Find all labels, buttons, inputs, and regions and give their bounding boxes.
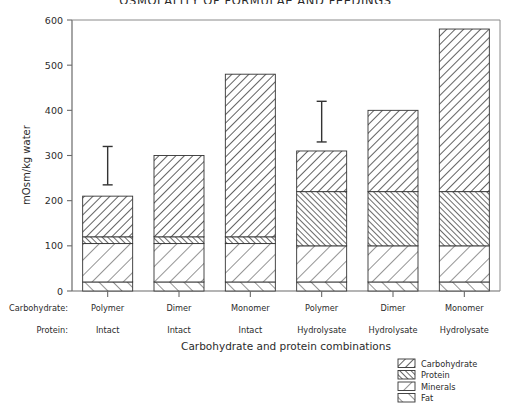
legend-label-protein: Protein xyxy=(421,370,450,380)
error-bar xyxy=(103,146,113,184)
category-row-name: Carbohydrate: xyxy=(9,303,68,313)
bar-segment-protein xyxy=(154,237,204,244)
bars-group xyxy=(83,29,490,291)
bar-segment-protein xyxy=(225,237,275,244)
legend-label-fat: Fat xyxy=(421,393,434,403)
legend-label-carbohydrate: Carbohydrate xyxy=(421,359,477,369)
bar-segment-fat xyxy=(439,282,489,291)
category-row-name: Protein: xyxy=(37,325,68,335)
legend-swatch-fat xyxy=(398,394,415,403)
bar-segment-fat xyxy=(154,282,204,291)
bar-segment-protein xyxy=(439,192,489,246)
y-tick-label: 400 xyxy=(45,105,63,116)
category-label: Hydrolysate xyxy=(440,325,489,335)
legend-swatch-carbohydrate xyxy=(398,359,415,368)
y-axis-label: mOsm/kg water xyxy=(21,124,32,205)
osmolality-stacked-bar-chart: OSMOLALITY OF FORMULAE AND FEEDINGS xyxy=(0,0,511,404)
category-label: Hydrolysate xyxy=(297,325,346,335)
bar-segment-carbohydrate xyxy=(154,156,204,237)
bar-segment-fat xyxy=(297,282,347,291)
category-label: Hydrolysate xyxy=(368,325,417,335)
category-label: Monomer xyxy=(231,303,270,313)
bar-segment-fat xyxy=(83,282,133,291)
x-axis-title: Carbohydrate and protein combinations xyxy=(181,340,391,352)
plot-frame xyxy=(72,20,500,291)
legend: CarbohydrateProteinMineralsFat xyxy=(398,359,477,404)
y-tick-label: 200 xyxy=(45,195,63,206)
bar-segment-minerals xyxy=(154,244,204,282)
category-label: Monomer xyxy=(445,303,484,313)
legend-swatch-minerals xyxy=(398,382,415,391)
bar-segment-carbohydrate xyxy=(368,110,418,191)
category-label: Intact xyxy=(167,325,191,335)
x-axis-category-ticks xyxy=(108,291,465,297)
y-tick-label: 100 xyxy=(45,240,63,251)
y-axis-ticks: 0100200300400500600 xyxy=(45,15,72,297)
bar-segment-minerals xyxy=(83,244,133,282)
x-axis-category-labels: Carbohydrate:PolymerDimerMonomerPolymerD… xyxy=(9,303,489,335)
bar-segment-minerals xyxy=(225,244,275,282)
legend-swatch-protein xyxy=(398,371,415,380)
bar-segment-minerals xyxy=(297,246,347,282)
category-label: Intact xyxy=(239,325,263,335)
bar-segment-carbohydrate xyxy=(439,29,489,192)
y-axis-title: mOsm/kg water xyxy=(21,124,32,205)
bar-segment-carbohydrate xyxy=(297,151,347,192)
category-label: Dimer xyxy=(167,303,193,313)
y-tick-label: 300 xyxy=(45,150,63,161)
y-tick-label: 0 xyxy=(57,286,63,297)
category-label: Polymer xyxy=(305,303,339,313)
category-label: Polymer xyxy=(91,303,125,313)
bar-segment-protein xyxy=(83,237,133,244)
bar-segment-protein xyxy=(368,192,418,246)
category-label: Intact xyxy=(96,325,120,335)
legend-label-minerals: Minerals xyxy=(421,382,456,392)
bar-segment-carbohydrate xyxy=(83,196,133,237)
bar-segment-fat xyxy=(225,282,275,291)
bar-segment-fat xyxy=(368,282,418,291)
bar-segment-minerals xyxy=(368,246,418,282)
error-bars-group xyxy=(103,101,327,185)
category-label: Dimer xyxy=(381,303,407,313)
y-tick-label: 600 xyxy=(45,15,63,26)
bar-segment-protein xyxy=(297,192,347,246)
bar-segment-minerals xyxy=(439,246,489,282)
chart-canvas: 0100200300400500600 mOsm/kg water Carboh… xyxy=(0,0,511,404)
bar-segment-carbohydrate xyxy=(225,74,275,237)
y-tick-label: 500 xyxy=(45,60,63,71)
error-bar xyxy=(317,101,327,142)
